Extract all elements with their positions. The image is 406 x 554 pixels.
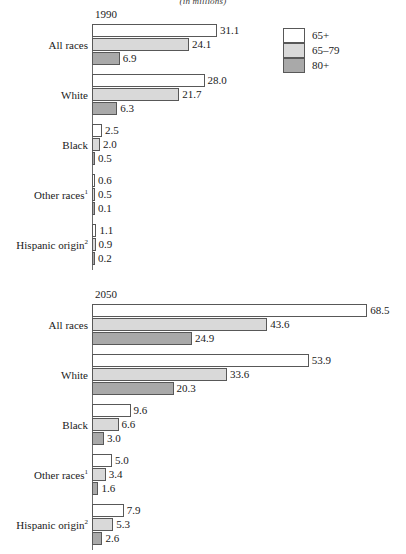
category-label: All races [0, 319, 88, 331]
bar-value-label: 0.5 [95, 188, 112, 201]
footnote-marker: 2 [85, 518, 89, 526]
bar [92, 454, 112, 467]
legend-swatch [283, 28, 305, 43]
bar-group: Hispanic origin27.95.32.6 [0, 504, 406, 545]
bar-value-label: 5.3 [113, 518, 130, 531]
category-label: White [0, 89, 88, 101]
bar-value-label: 9.6 [131, 404, 148, 417]
bar-value-label: 28.0 [205, 74, 227, 87]
legend-label: 65+ [312, 28, 329, 43]
chart-subtitle: (in millions) [0, 0, 406, 6]
legend-swatch [283, 43, 305, 58]
category-label: Black [0, 419, 88, 431]
bar-value-label: 1.1 [96, 224, 113, 237]
bar-value-label: 6.6 [119, 418, 136, 431]
bar [92, 504, 124, 517]
category-label: White [0, 369, 88, 381]
bar [92, 102, 117, 115]
bar [92, 304, 367, 317]
legend-swatch [283, 58, 305, 73]
bar-group: Other races15.03.41.6 [0, 454, 406, 495]
bar [92, 74, 205, 87]
bar-group: White53.933.620.3 [0, 354, 406, 395]
legend-item: 65–79 [283, 43, 393, 58]
bar [92, 138, 100, 151]
panel-label-1990: 1990 [95, 8, 117, 20]
legend: 65+65–7980+ [283, 28, 393, 73]
bar-value-label: 1.6 [98, 482, 115, 495]
bar-value-label: 6.9 [120, 52, 137, 65]
bar-value-label: 20.3 [174, 382, 196, 395]
chart-page: (in millions) 1990 All races31.124.16.9W… [0, 0, 406, 554]
bar-group: Other races10.60.50.1 [0, 174, 406, 215]
bar [92, 124, 102, 137]
bar [92, 368, 227, 381]
bar-group: All races68.543.624.9 [0, 304, 406, 345]
bar [92, 432, 104, 445]
bar-value-label: 2.0 [100, 138, 117, 151]
bar [92, 38, 189, 51]
footnote-marker: 1 [85, 468, 89, 476]
category-label: Other races1 [0, 189, 88, 201]
legend-label: 80+ [312, 58, 329, 73]
bar [92, 418, 119, 431]
category-label: Hispanic origin2 [0, 519, 88, 531]
bar-value-label: 21.7 [179, 88, 201, 101]
footnote-marker: 2 [85, 238, 89, 246]
bar-group: White28.021.76.3 [0, 74, 406, 115]
bar-value-label: 0.9 [96, 238, 113, 251]
category-label: All races [0, 39, 88, 51]
bar-value-label: 3.4 [106, 468, 123, 481]
bar-value-label: 0.1 [95, 202, 112, 215]
bar-value-label: 43.6 [267, 318, 289, 331]
footnote-marker: 1 [85, 188, 89, 196]
category-label: Hispanic origin2 [0, 239, 88, 251]
bar-value-label: 24.1 [189, 38, 211, 51]
bar-value-label: 7.9 [124, 504, 141, 517]
bar-group: Black9.66.63.0 [0, 404, 406, 445]
bar [92, 52, 120, 65]
bar-value-label: 53.9 [309, 354, 331, 367]
bar-value-label: 2.6 [102, 532, 119, 545]
bar-value-label: 0.6 [95, 174, 112, 187]
bar [92, 532, 102, 545]
bar-value-label: 0.5 [95, 152, 112, 165]
category-label: Other races1 [0, 469, 88, 481]
bar [92, 332, 192, 345]
bar-value-label: 33.6 [227, 368, 249, 381]
bar [92, 88, 179, 101]
bar [92, 518, 113, 531]
panel-label-2050: 2050 [95, 288, 117, 300]
bar-group: Hispanic origin21.10.90.2 [0, 224, 406, 265]
category-label: Black [0, 139, 88, 151]
bar [92, 404, 131, 417]
legend-label: 65–79 [312, 43, 340, 58]
bar-value-label: 0.2 [95, 252, 112, 265]
bar-group: Black2.52.00.5 [0, 124, 406, 165]
bar [92, 468, 106, 481]
bar-value-label: 31.1 [217, 24, 239, 37]
bar-value-label: 6.3 [117, 102, 134, 115]
bar [92, 382, 174, 395]
bar-value-label: 24.9 [192, 332, 214, 345]
bar [92, 318, 267, 331]
bar [92, 354, 309, 367]
legend-item: 80+ [283, 58, 393, 73]
bar-value-label: 68.5 [367, 304, 389, 317]
bar-value-label: 3.0 [104, 432, 121, 445]
legend-item: 65+ [283, 28, 393, 43]
bar-value-label: 5.0 [112, 454, 129, 467]
bar [92, 24, 217, 37]
bar-value-label: 2.5 [102, 124, 119, 137]
